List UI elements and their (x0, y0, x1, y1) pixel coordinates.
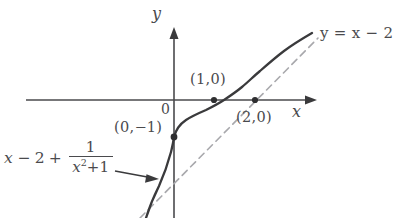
function-curve (146, 33, 312, 218)
formula-pointer-arrow (115, 171, 159, 183)
point-marker-2-0 (252, 97, 258, 103)
y-axis-label: y (152, 6, 161, 22)
label-function-formula: x − 2 + 1 x2+1 (4, 140, 113, 175)
formula-denominator-tail: +1 (87, 158, 109, 176)
formula-numerator: 1 (79, 140, 103, 156)
y-axis-arrowhead (170, 27, 179, 39)
formula-denominator-base: x (72, 158, 80, 176)
formula-constant: 2 (35, 149, 45, 167)
label-asymptote-equation: y = x − 2 (320, 26, 393, 41)
label-point-1-0: (1,0) (190, 72, 226, 87)
point-marker-1-0 (211, 97, 217, 103)
label-point-0-neg1: (0,−1) (114, 120, 162, 135)
origin-label: 0 (161, 102, 170, 116)
label-point-2-0: (2,0) (236, 110, 272, 125)
graph-figure: y x 0 (1,0) (2,0) (0,−1) y = x − 2 x − 2… (0, 0, 402, 218)
asymptote-line (140, 38, 318, 218)
formula-fraction: 1 x2+1 (69, 140, 113, 175)
x-axis-label: x (292, 104, 301, 120)
x-axis (26, 96, 317, 105)
formula-lead-term: x (4, 149, 13, 167)
formula-minus-sign: − (18, 149, 31, 167)
y-axis (170, 27, 179, 218)
point-marker-0-neg1 (171, 134, 178, 141)
formula-plus-sign: + (49, 149, 62, 167)
x-axis-arrowhead (305, 96, 317, 105)
formula-denominator: x2+1 (70, 157, 111, 175)
